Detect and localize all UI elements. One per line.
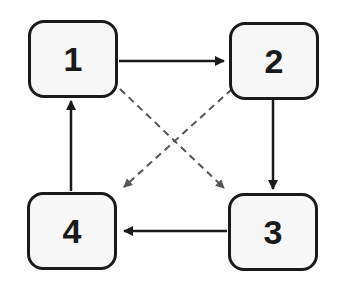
node-2: 2 — [229, 22, 319, 100]
node-3: 3 — [228, 193, 318, 271]
node-1: 1 — [28, 20, 118, 98]
node-4: 4 — [27, 192, 117, 270]
node-3-label: 3 — [264, 213, 283, 252]
node-1-label: 1 — [64, 40, 83, 79]
node-4-label: 4 — [63, 212, 82, 251]
node-2-label: 2 — [265, 42, 284, 81]
edge-2-to-4-dashed — [124, 89, 232, 187]
edge-1-to-3-dashed — [120, 89, 224, 188]
